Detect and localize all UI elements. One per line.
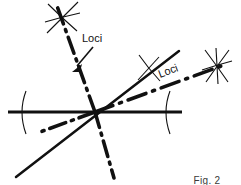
star-marker-upper-left [45, 2, 80, 33]
arc-ticks-group [22, 55, 170, 134]
figure-container: Loci Loci Fig. 2 [0, 0, 241, 185]
figure-caption: Fig. 2 [194, 175, 221, 185]
arrow-shaft [77, 47, 93, 66]
line-diagram: Loci Loci Fig. 2 [0, 0, 241, 185]
loci-label-left: Loci [82, 32, 102, 44]
dashdot-lines-group [40, 6, 224, 178]
diagonal-lower-left-to-upper-right [16, 51, 179, 177]
star-marker-upper-right [202, 48, 232, 84]
lower-right-dashdot-line [95, 112, 114, 178]
upper-left-dashdot-line [57, 6, 95, 112]
